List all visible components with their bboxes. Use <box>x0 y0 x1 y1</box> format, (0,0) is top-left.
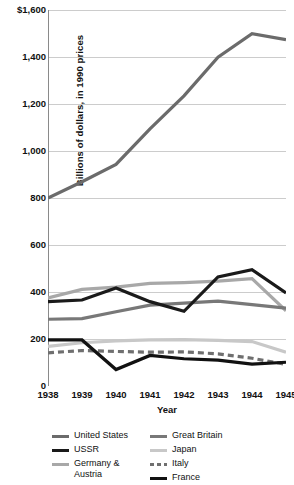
y-tick-label: 800 <box>2 193 46 203</box>
legend-item[interactable]: France <box>150 472 242 485</box>
y-tick-label: 1,400 <box>2 52 46 62</box>
chart-legend: United StatesUSSRGermany & Austria Great… <box>0 430 294 485</box>
legend-item[interactable]: Great Britain <box>150 430 242 443</box>
legend-item-label: Great Britain <box>172 430 223 441</box>
legend-swatch-line-icon <box>52 459 69 470</box>
y-axis-tick-labels: $1,6001,4001,2001,0008006004002000 <box>0 0 46 396</box>
y-tick-label: $1,600 <box>2 5 46 15</box>
legend-item-label: United States <box>74 430 128 441</box>
legend-column-left: United StatesUSSRGermany & Austria <box>52 430 144 483</box>
series-line-united-states <box>48 34 286 198</box>
x-tick-label: 1945 <box>266 390 294 400</box>
x-axis-tick-labels: 19381939194019411942194319441945 <box>48 390 286 404</box>
series-line-france <box>48 340 286 370</box>
chart-canvas <box>48 10 286 386</box>
x-axis-title: Year <box>48 404 286 415</box>
y-tick-label: 1,000 <box>2 146 46 156</box>
y-tick-label: 600 <box>2 240 46 250</box>
y-tick-label: 200 <box>2 334 46 344</box>
legend-item-label: France <box>172 472 200 483</box>
legend-item[interactable]: Japan <box>150 444 242 457</box>
legend-item-label: Japan <box>172 444 197 455</box>
legend-item[interactable]: USSR <box>52 444 144 457</box>
legend-item-label: Italy <box>172 458 189 469</box>
legend-swatch-line-icon <box>150 473 167 484</box>
legend-swatch-line-icon <box>150 445 167 456</box>
y-tick-label: 1,200 <box>2 99 46 109</box>
legend-item-label: USSR <box>74 444 99 455</box>
chart-figure: Billions of dollars, in 1990 prices $1,6… <box>0 0 294 485</box>
series-line-great-britain <box>48 301 286 319</box>
plot-area <box>48 10 286 386</box>
legend-swatch-line-icon <box>52 445 69 456</box>
legend-swatch-line-icon <box>150 431 167 442</box>
legend-swatch-line-icon <box>150 459 167 470</box>
legend-item[interactable]: Italy <box>150 458 242 471</box>
legend-item[interactable]: United States <box>52 430 144 443</box>
legend-item-label: Germany & Austria <box>74 458 120 480</box>
legend-item[interactable]: Germany & Austria <box>52 458 144 482</box>
legend-swatch-line-icon <box>52 431 69 442</box>
y-tick-label: 400 <box>2 287 46 297</box>
legend-column-right: Great BritainJapanItalyFrance <box>150 430 242 485</box>
